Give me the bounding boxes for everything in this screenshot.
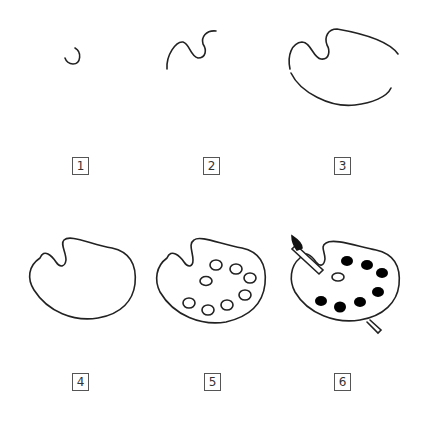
- step-label-3: 3: [334, 157, 351, 175]
- step-6-drawing: [291, 236, 399, 333]
- step-label-2: 2: [203, 157, 220, 175]
- drawing-steps: [0, 0, 422, 421]
- step-label-5: 5: [204, 373, 221, 391]
- step-2-drawing: [167, 31, 216, 69]
- step-4-drawing: [30, 238, 136, 319]
- step-label-4: 4: [72, 373, 89, 391]
- step-label-6: 6: [334, 373, 351, 391]
- step-5-drawing: [157, 239, 266, 323]
- step-3-drawing: [289, 29, 398, 105]
- step-label-1: 1: [72, 157, 89, 175]
- step-1-drawing: [65, 48, 80, 64]
